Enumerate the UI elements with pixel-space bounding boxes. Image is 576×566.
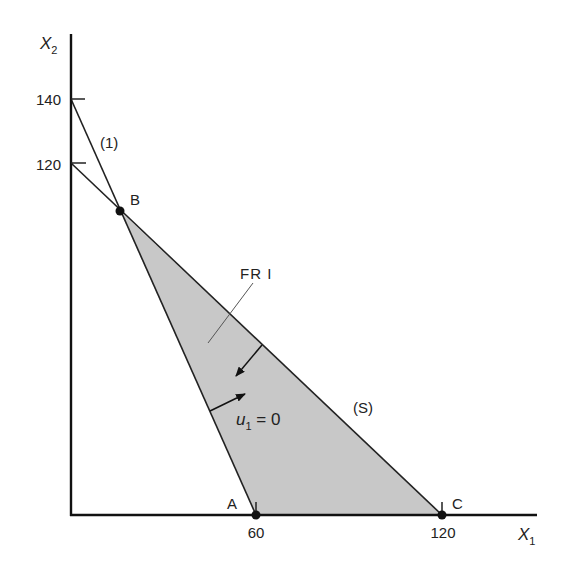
x-tick-label-120: 120	[430, 524, 455, 541]
diagram-canvas: X2 X1 140 120 60 120 B A C (1) (S) FR I …	[0, 0, 576, 566]
point-b	[116, 207, 125, 216]
region-label: FR I	[240, 265, 272, 282]
point-a	[252, 511, 261, 520]
x-axis-label: X1	[517, 525, 535, 547]
slack-annotation: u1 = 0	[236, 410, 280, 432]
point-label-b: B	[130, 191, 140, 208]
point-label-c: C	[452, 495, 463, 512]
constraint-label-s: (S)	[353, 399, 373, 416]
x-tick-label-60: 60	[248, 524, 265, 541]
constraint-line-1	[71, 99, 256, 515]
y-tick-label-140: 140	[36, 91, 61, 108]
constraint-label-1: (1)	[100, 134, 118, 151]
y-axis-label: X2	[39, 34, 57, 56]
point-c	[438, 511, 447, 520]
y-tick-label-120: 120	[36, 156, 61, 173]
point-label-a: A	[227, 495, 237, 512]
